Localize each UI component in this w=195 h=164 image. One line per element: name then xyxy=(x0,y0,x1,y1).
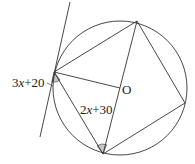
tangent-angle-label: 3x+20 xyxy=(12,75,45,90)
chord-BC xyxy=(137,21,185,103)
radius-AO xyxy=(54,72,120,88)
inscribed-angle-label: 2x+30 xyxy=(80,102,113,117)
diagram-svg: O 3x+20 2x+30 xyxy=(0,0,195,164)
diameter-BD xyxy=(103,21,137,154)
chord-AB xyxy=(54,21,137,72)
center-label: O xyxy=(122,82,131,97)
chord-CD xyxy=(103,103,185,154)
tangent-line xyxy=(40,2,70,137)
circle-geometry-diagram: O 3x+20 2x+30 xyxy=(0,0,195,164)
